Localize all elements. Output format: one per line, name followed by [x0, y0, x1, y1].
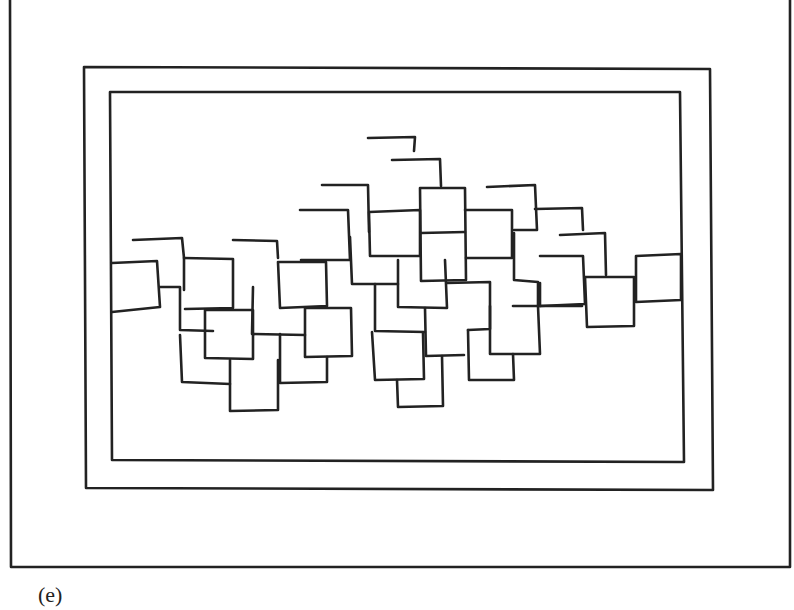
tile-pattern	[112, 137, 681, 411]
outer-frame	[10, 0, 790, 567]
figure-drawing	[0, 0, 794, 610]
figure-caption: (e)	[38, 582, 62, 608]
